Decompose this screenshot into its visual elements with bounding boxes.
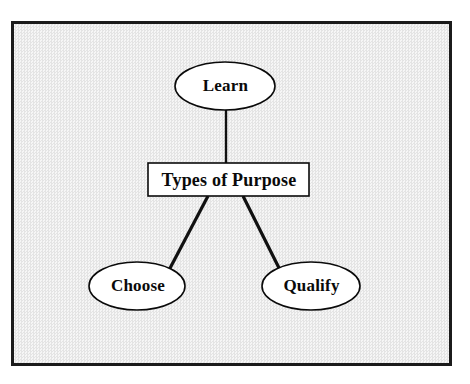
edge-root-choose <box>168 196 208 272</box>
edge-root-qualify <box>243 196 281 272</box>
node-learn-label: Learn <box>175 75 276 97</box>
node-choose-label: Choose <box>90 275 186 297</box>
node-root-label: Types of Purpose <box>149 169 309 191</box>
node-qualify-label: Qualify <box>263 275 360 297</box>
diagram-svg <box>0 0 470 384</box>
page-canvas: Learn Types of Purpose Choose Qualify <box>0 0 470 384</box>
